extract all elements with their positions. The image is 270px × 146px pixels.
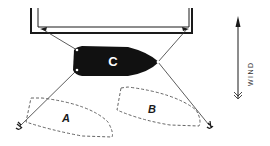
cleat-bow-icon	[157, 61, 160, 64]
boat-a-label: A	[61, 112, 70, 124]
dock	[31, 8, 192, 33]
wind-arrow-icon	[234, 16, 242, 99]
cleat-stern-port-icon	[76, 49, 79, 52]
dock-arrowheads	[40, 27, 189, 31]
mooring-diagram: C A B WIND	[0, 0, 270, 146]
wind-label: WIND	[247, 61, 254, 86]
bow-anchor-line	[158, 62, 209, 125]
anchor-left-icon	[16, 122, 22, 129]
boat-b-label: B	[148, 103, 156, 115]
arrowhead-left-icon	[40, 27, 47, 31]
mooring-lines	[20, 29, 209, 126]
cleat-stern-starboard-icon	[76, 69, 79, 72]
anchor-right-icon	[207, 121, 213, 128]
boat-c-label: C	[108, 54, 118, 69]
boat-b: B	[117, 87, 200, 126]
boat-a: A	[26, 98, 113, 137]
boat-c: C	[73, 46, 159, 76]
